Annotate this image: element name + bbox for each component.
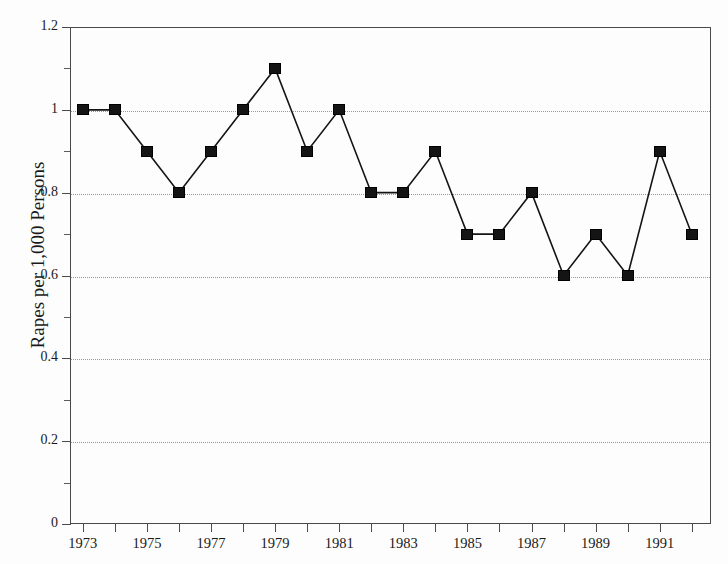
title-remnant: [0, 0, 728, 3]
gridline: [71, 111, 710, 112]
x-tick: [660, 524, 661, 532]
data-point-marker: [109, 104, 121, 115]
x-tick: [564, 524, 565, 532]
x-tick: [115, 524, 116, 532]
gridline: [71, 359, 710, 360]
y-tick-label: 1.2: [0, 18, 58, 34]
data-point-marker: [397, 187, 409, 198]
plot-area: [70, 27, 711, 524]
x-tick-label: 1981: [309, 535, 369, 552]
gridline: [71, 277, 710, 278]
y-tick-label: 0: [0, 515, 58, 531]
data-point-marker: [173, 187, 185, 198]
x-tick: [403, 524, 404, 532]
x-tick: [307, 524, 308, 532]
x-tick: [147, 524, 148, 532]
data-point-marker: [654, 146, 666, 157]
data-point-marker: [141, 146, 153, 157]
gridline: [71, 194, 710, 195]
x-tick: [467, 524, 468, 532]
x-tick: [371, 524, 372, 532]
x-tick-label: 1973: [53, 535, 113, 552]
x-tick: [692, 524, 693, 532]
data-point-marker: [301, 146, 313, 157]
x-tick: [83, 524, 84, 532]
data-point-marker: [526, 187, 538, 198]
x-tick: [275, 524, 276, 532]
gridline: [71, 442, 710, 443]
y-tick-label: 1: [0, 101, 58, 117]
data-point-marker: [493, 229, 505, 240]
data-point-marker: [269, 63, 281, 74]
x-tick: [339, 524, 340, 532]
data-point-marker: [365, 187, 377, 198]
x-tick-label: 1975: [117, 535, 177, 552]
x-tick: [499, 524, 500, 532]
x-tick: [179, 524, 180, 532]
y-tick-label: 0.8: [0, 184, 58, 200]
x-tick: [628, 524, 629, 532]
data-point-marker: [205, 146, 217, 157]
y-tick-label: 0.2: [0, 432, 58, 448]
x-tick-label: 1977: [181, 535, 241, 552]
x-tick: [596, 524, 597, 532]
data-point-marker: [590, 229, 602, 240]
x-tick: [435, 524, 436, 532]
x-tick-label: 1989: [566, 535, 626, 552]
data-point-marker: [429, 146, 441, 157]
y-tick: [62, 524, 71, 525]
data-point-marker: [622, 270, 634, 281]
x-tick-label: 1985: [437, 535, 497, 552]
y-tick-label: 0.6: [0, 267, 58, 283]
x-tick-label: 1979: [245, 535, 305, 552]
data-point-marker: [558, 270, 570, 281]
x-tick: [211, 524, 212, 532]
x-tick-label: 1987: [502, 535, 562, 552]
data-point-marker: [77, 104, 89, 115]
chart-figure: Rapes per 1,000 Persons 00.20.40.60.811.…: [0, 0, 728, 564]
x-tick: [243, 524, 244, 532]
y-tick-label: 0.4: [0, 349, 58, 365]
data-point-marker: [461, 229, 473, 240]
data-point-marker: [686, 229, 698, 240]
data-point-marker: [237, 104, 249, 115]
x-tick: [532, 524, 533, 532]
x-tick-label: 1991: [630, 535, 690, 552]
data-point-marker: [333, 104, 345, 115]
x-tick-label: 1983: [373, 535, 433, 552]
